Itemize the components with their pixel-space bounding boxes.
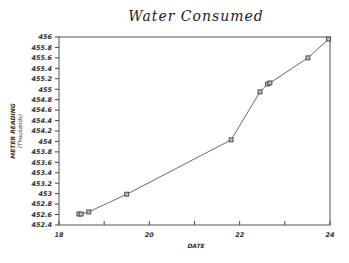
x-tick-label: 24 <box>325 231 335 239</box>
y-tick-label: 452.4 <box>31 221 52 229</box>
data-point-marker <box>125 192 129 196</box>
y-tick-label: 454.4 <box>31 117 52 125</box>
y-tick-label: 454 <box>38 138 52 146</box>
data-point-marker <box>87 210 91 214</box>
data-point-marker <box>258 90 262 94</box>
x-axis-label: DATE <box>187 242 205 249</box>
y-tick-label: 453.2 <box>31 180 52 188</box>
y-axis-label: METER READING <box>9 103 16 159</box>
x-tick-label: 22 <box>235 231 245 239</box>
x-axis-ticks: 18202224 <box>54 221 335 239</box>
y-tick-label: 452.8 <box>31 200 52 208</box>
y-axis-label-group: METER READING (Thousands) <box>9 103 23 159</box>
y-tick-label: 455.2 <box>31 75 52 83</box>
data-point-marker <box>306 56 310 60</box>
data-markers <box>77 37 331 216</box>
y-tick-label: 455.8 <box>31 44 52 52</box>
y-tick-label: 453.4 <box>31 169 52 177</box>
data-line <box>79 39 329 214</box>
y-tick-label: 452.6 <box>31 211 52 219</box>
water-consumed-chart: Water Consumed 452.4452.6452.8453453.245… <box>0 0 349 263</box>
chart-title: Water Consumed <box>128 8 263 24</box>
y-tick-label: 454.2 <box>31 127 52 135</box>
y-tick-label: 453 <box>38 190 52 198</box>
data-point-marker <box>229 138 233 142</box>
y-axis-sublabel: (Thousands) <box>17 114 23 148</box>
y-tick-label: 455.6 <box>31 54 52 62</box>
x-tick-label: 20 <box>145 231 155 239</box>
y-tick-label: 455 <box>38 86 52 94</box>
y-tick-label: 453.6 <box>31 159 52 167</box>
data-point-marker <box>79 212 83 216</box>
y-axis-ticks: 452.4452.6452.8453453.2453.4453.6453.845… <box>31 33 59 229</box>
x-tick-label: 18 <box>54 231 64 239</box>
data-point-marker <box>268 81 272 85</box>
y-tick-label: 453.8 <box>31 148 52 156</box>
y-tick-label: 454.6 <box>31 106 52 114</box>
plot-frame <box>59 37 330 225</box>
y-tick-label: 456 <box>38 33 52 41</box>
y-tick-label: 455.4 <box>31 65 52 73</box>
y-tick-label: 454.8 <box>31 96 52 104</box>
data-point-marker <box>327 37 331 41</box>
